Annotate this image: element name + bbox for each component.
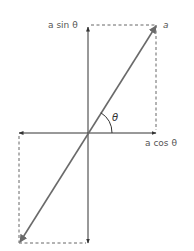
angle-label: θ bbox=[112, 112, 118, 123]
vector-diagram: a sin θ a θ a cos θ bbox=[0, 0, 194, 251]
y-component-label: a sin θ bbox=[48, 20, 78, 30]
x-component-label: a cos θ bbox=[145, 138, 177, 148]
angle-arc bbox=[101, 113, 112, 133]
vector-label: a bbox=[163, 20, 169, 30]
